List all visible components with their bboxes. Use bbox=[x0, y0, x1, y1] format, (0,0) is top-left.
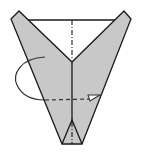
origami-diagram bbox=[0, 0, 142, 155]
